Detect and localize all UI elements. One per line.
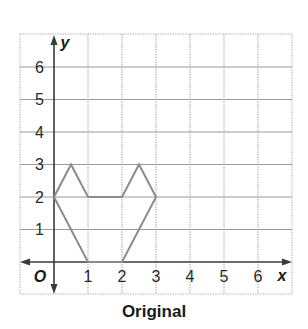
- x-tick-4: 4: [186, 268, 195, 285]
- y-tick-1: 1: [35, 221, 44, 238]
- x-tick-3: 3: [152, 268, 161, 285]
- x-tick-6: 6: [254, 268, 263, 285]
- origin-label: O: [34, 268, 47, 285]
- y-tick-5: 5: [35, 91, 44, 108]
- figure-caption: Original: [0, 302, 308, 322]
- y-tick-6: 6: [35, 59, 44, 76]
- y-tick-2: 2: [35, 189, 44, 206]
- x-tick-5: 5: [220, 268, 229, 285]
- x-axis-left-arrow-icon: [20, 259, 30, 266]
- x-axis-label: x: [277, 267, 288, 284]
- x-axis-right-arrow-icon: [282, 259, 292, 266]
- y-tick-3: 3: [35, 156, 44, 173]
- coordinate-plane: 1 2 3 4 5 6 1 2 3 4 5 6 O x y: [0, 0, 308, 329]
- y-axis-down-arrow-icon: [51, 284, 58, 294]
- y-tick-labels: 1 2 3 4 5 6: [35, 59, 44, 239]
- x-tick-1: 1: [84, 268, 93, 285]
- x-tick-2: 2: [118, 268, 127, 285]
- x-tick-labels: 1 2 3 4 5 6: [84, 268, 263, 285]
- y-tick-4: 4: [35, 124, 44, 141]
- y-axis-label: y: [60, 34, 71, 51]
- y-axis-up-arrow-icon: [51, 35, 58, 45]
- original-figure-shape: [54, 165, 156, 263]
